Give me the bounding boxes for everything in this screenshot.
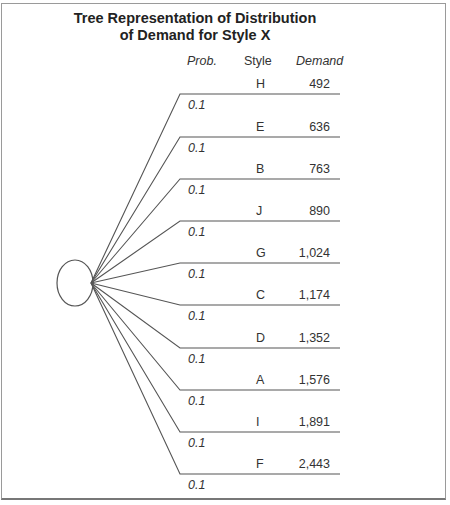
branch-prob: 0.1 [188, 309, 205, 323]
branch-prob: 0.1 [188, 141, 205, 155]
branch-prob: 0.1 [188, 478, 205, 492]
branch-style: A [256, 373, 264, 387]
branch-line [91, 137, 340, 283]
branch-style: C [256, 288, 265, 302]
branch-prob: 0.1 [188, 98, 205, 112]
branch-line [91, 179, 340, 283]
branch-demand: 2,443 [299, 457, 330, 471]
branch-demand: 636 [309, 120, 330, 134]
branch-style: E [256, 120, 264, 134]
branch-prob: 0.1 [188, 352, 205, 366]
branch-style: H [256, 77, 265, 91]
branch-style: F [256, 457, 264, 471]
branch-style: I [256, 415, 259, 429]
tree-diagram [0, 0, 450, 505]
branch-style: B [256, 162, 264, 176]
branch-style: G [256, 246, 266, 260]
branch-demand: 1,174 [299, 288, 330, 302]
branch-prob: 0.1 [188, 183, 205, 197]
branch-prob: 0.1 [188, 394, 205, 408]
branch-demand: 763 [309, 162, 330, 176]
branch-demand: 1,024 [299, 246, 330, 260]
branch-prob: 0.1 [188, 436, 205, 450]
branch-demand: 1,891 [299, 415, 330, 429]
root-node [57, 260, 93, 306]
branch-demand: 890 [309, 204, 330, 218]
branch-demand: 1,576 [299, 373, 330, 387]
branch-line [91, 263, 340, 283]
branch-demand: 1,352 [299, 331, 330, 345]
branch-prob: 0.1 [188, 225, 205, 239]
branch-prob: 0.1 [188, 267, 205, 281]
branch-demand: 492 [309, 77, 330, 91]
branch-style: J [256, 204, 262, 218]
branch-style: D [256, 331, 265, 345]
